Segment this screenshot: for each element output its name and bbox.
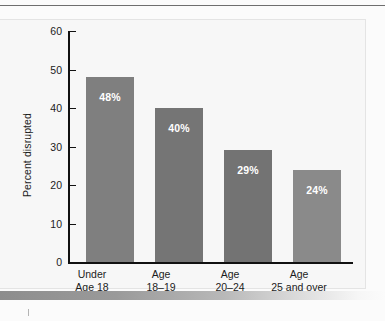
- bottom-gradient-band: [0, 291, 385, 300]
- bar-value-label-1: 40%: [155, 122, 203, 134]
- top-divider-rule: [0, 5, 385, 6]
- plot-area: 48% 40% 29% 24%: [68, 31, 353, 262]
- y-tick-label-20: 20: [16, 180, 62, 191]
- bar-value-label-3: 24%: [293, 184, 341, 196]
- y-tick-label-50: 50: [16, 65, 62, 76]
- bar-age-25-and-over[interactable]: 24%: [293, 170, 341, 262]
- page-corner-tick: [28, 309, 29, 316]
- bar-under-age-18[interactable]: 48%: [86, 77, 134, 262]
- y-tick-label-40: 40: [16, 103, 62, 114]
- x-category-label-3-line-0: Age: [253, 268, 345, 281]
- y-tick-label-0: 0: [16, 257, 62, 268]
- y-tick-label-60: 60: [16, 26, 62, 37]
- bar-value-label-2: 29%: [224, 164, 272, 176]
- y-tick-label-10: 10: [16, 219, 62, 230]
- x-axis-line: [68, 262, 353, 264]
- bar-chart: Percent disrupted 60 50 40 30 20 10 0 48…: [0, 19, 385, 291]
- bar-age-18-19[interactable]: 40%: [155, 108, 203, 262]
- y-tick-label-30: 30: [16, 142, 62, 153]
- bar-age-20-24[interactable]: 29%: [224, 150, 272, 262]
- bar-value-label-0: 48%: [86, 91, 134, 103]
